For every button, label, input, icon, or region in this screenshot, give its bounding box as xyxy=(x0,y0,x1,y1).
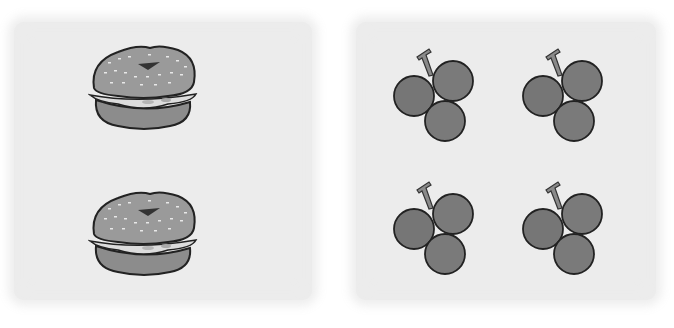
bagel-sandwich xyxy=(88,188,200,280)
grape-cluster-icon xyxy=(393,178,477,278)
grape-cluster xyxy=(393,178,477,278)
grape-cluster xyxy=(522,45,606,145)
grape-cluster xyxy=(522,178,606,278)
grape-cluster-icon xyxy=(522,178,606,278)
grape-cluster xyxy=(393,45,477,145)
grape-cluster-icon xyxy=(522,45,606,145)
grape-cluster-icon xyxy=(393,45,477,145)
bagel-sandwich-icon xyxy=(88,188,200,280)
bagel-sandwich-icon xyxy=(88,42,200,134)
bagel-sandwich xyxy=(88,42,200,134)
